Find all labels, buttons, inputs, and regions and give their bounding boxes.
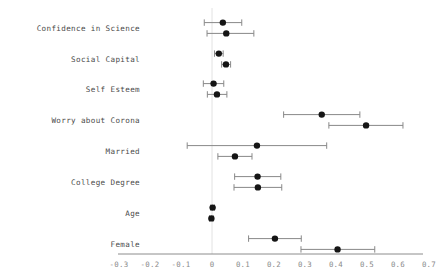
point-estimate-marker [208, 215, 214, 221]
point-estimate-marker [209, 204, 215, 210]
point-estimate-marker [216, 50, 222, 56]
point-estimate-marker [319, 111, 325, 117]
point-estimate-marker [210, 80, 216, 86]
point-estimate-marker [223, 61, 229, 67]
point-estimate-marker [232, 153, 238, 159]
point-estimate-marker [254, 173, 260, 179]
x-axis-tick-label: -0.2 [141, 260, 160, 269]
point-estimate-marker [223, 30, 229, 36]
x-axis-tick-label: 0.5 [360, 260, 374, 269]
x-axis-tick-label: 0 [210, 260, 215, 269]
category-label: Worry about Corona [51, 116, 140, 125]
point-estimate-marker [272, 235, 278, 241]
point-estimate-marker [255, 184, 261, 190]
forest-plot-chart: Confidence in ScienceSocial CapitalSelf … [0, 0, 436, 278]
category-label: Social Capital [71, 55, 140, 64]
x-axis-tick-label: 0.2 [267, 260, 281, 269]
point-estimate-marker [334, 246, 340, 252]
category-label: Self Esteem [86, 85, 140, 94]
category-label: Confidence in Science [37, 24, 140, 33]
x-axis-tick-label: 0.1 [236, 260, 250, 269]
x-axis-tick-label: 0.6 [391, 260, 405, 269]
x-axis-tick-label: 0.4 [329, 260, 343, 269]
point-estimate-marker [254, 142, 260, 148]
category-label: Age [125, 209, 140, 218]
x-axis-tick-label: 0.3 [298, 260, 312, 269]
point-estimate-marker [220, 19, 226, 25]
point-estimate-marker [363, 122, 369, 128]
x-axis-tick-label: -0.3 [110, 260, 129, 269]
plot-background [0, 0, 436, 278]
category-label: Married [106, 147, 140, 156]
point-estimate-marker [214, 91, 220, 97]
category-label: Female [110, 240, 140, 249]
category-label: College Degree [71, 178, 140, 187]
x-axis-tick-label: 0.7 [422, 260, 436, 269]
x-axis-tick-label: -0.1 [172, 260, 191, 269]
